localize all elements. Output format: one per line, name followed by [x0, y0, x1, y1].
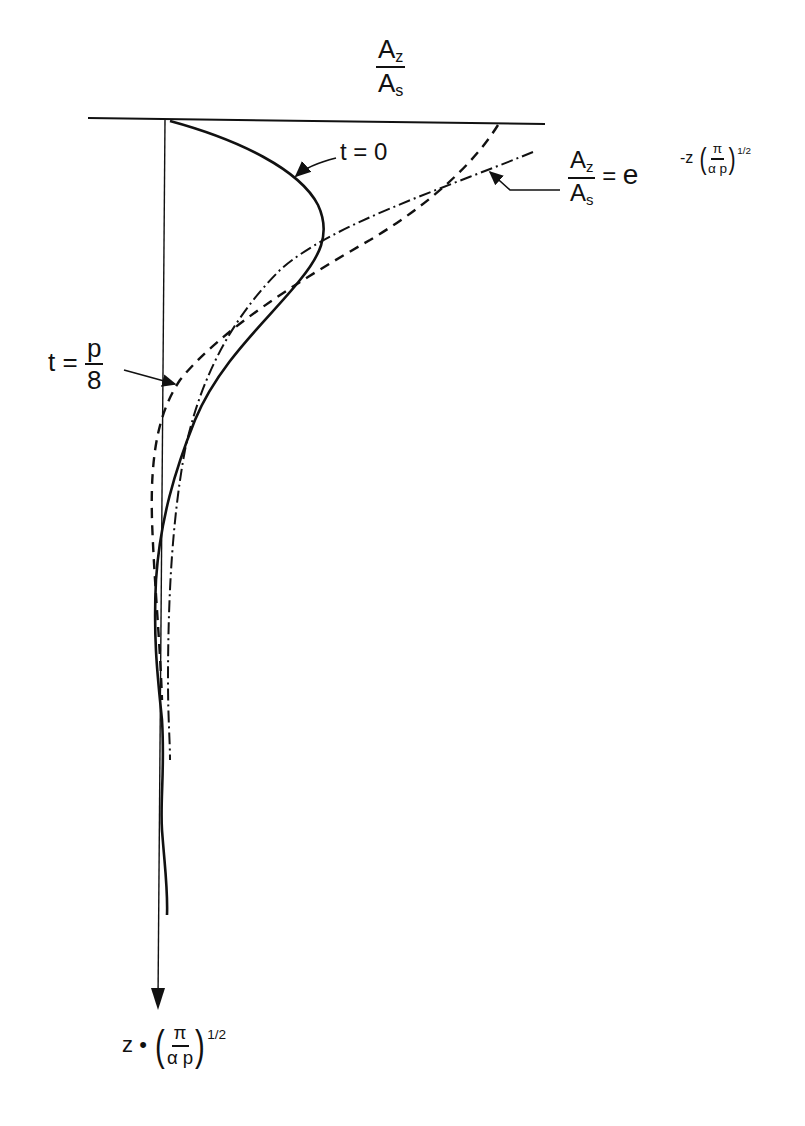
curve-envelope: [168, 152, 533, 760]
label-envelope-equation: Az As = e -z ( π α p )1/2: [568, 148, 638, 207]
depth-axis-arrow-icon: [151, 988, 165, 1010]
top-axis-label: Az As: [376, 36, 405, 98]
curve-t0: [155, 121, 324, 915]
arrow-t-p8: [124, 370, 175, 384]
arrow-t0: [296, 158, 336, 176]
curve-t-p8: [152, 125, 498, 700]
surface-axis-line: [88, 118, 545, 124]
label-t-p8: t = p 8: [48, 335, 103, 393]
label-t0: t = 0: [340, 140, 387, 164]
arrow-envelope: [490, 172, 560, 190]
depth-axis-label: z • ( π α p )1/2: [122, 1024, 226, 1067]
